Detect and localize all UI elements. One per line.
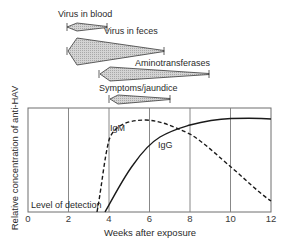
x-tick-12: 12 xyxy=(266,213,277,224)
igg-label: IgG xyxy=(158,140,173,150)
x-tick-0: 0 xyxy=(25,213,30,224)
detection-label: Level of detection xyxy=(31,200,102,210)
igm-label: IgM xyxy=(110,123,125,133)
bar-label-virus-in-blood: Virus in blood xyxy=(58,9,112,19)
x-tick-8: 8 xyxy=(187,213,192,224)
bar-aminotransferases: Aminotransferases xyxy=(99,58,211,81)
igg-curve xyxy=(105,118,271,212)
x-tick-10: 10 xyxy=(225,213,236,224)
gridlines xyxy=(69,108,231,212)
x-tick-4: 4 xyxy=(106,213,111,224)
bar-symptoms-jaundice: Symptoms/jaundice xyxy=(99,83,178,104)
x-tick-6: 6 xyxy=(147,213,152,224)
bar-label-symptoms-jaundice: Symptoms/jaundice xyxy=(99,83,178,93)
x-tick-2: 2 xyxy=(66,213,71,224)
timeline-bars: Virus in blood Virus in feces Aminotrans… xyxy=(58,9,211,104)
y-axis-title: Relative concentration of anti-HAV xyxy=(9,85,20,230)
x-axis-title: Weeks after exposure xyxy=(104,227,196,238)
bar-label-aminotransferases: Aminotransferases xyxy=(135,58,211,68)
bar-label-virus-in-feces: Virus in feces xyxy=(104,26,158,36)
plot-area xyxy=(28,108,271,212)
igm-curve xyxy=(97,120,271,212)
hav-serology-chart: Virus in blood Virus in feces Aminotrans… xyxy=(0,0,286,244)
x-tick-labels: 0 2 4 6 8 10 12 xyxy=(25,213,276,224)
